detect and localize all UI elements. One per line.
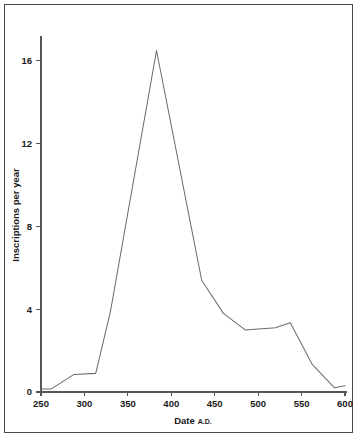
x-axis-title: DateA.D.: [174, 415, 212, 426]
y-tick-label: 4: [27, 304, 33, 315]
x-tick-label: 450: [207, 398, 223, 409]
x-tick-label: 500: [250, 398, 266, 409]
x-tick-label: 300: [76, 398, 92, 409]
y-tick-label: 0: [27, 386, 32, 397]
figure-root: 0481216 250300350400450500550600 DateA.D…: [0, 0, 358, 438]
y-tick-label: 8: [27, 221, 32, 232]
y-tick-label: 12: [21, 138, 32, 149]
x-tick-label: 400: [163, 398, 179, 409]
x-tick-label: 350: [120, 398, 136, 409]
y-axis-ticks: [36, 61, 41, 392]
x-tick-label: 550: [294, 398, 310, 409]
x-tick-label: 600: [337, 398, 353, 409]
x-axis-title-main: Date: [174, 415, 195, 426]
y-axis-title: Inscriptions per year: [10, 168, 21, 262]
x-tick-label: 250: [33, 398, 49, 409]
y-axis-tick-labels: 0481216: [21, 55, 32, 397]
data-series-line: [41, 50, 345, 388]
x-axis-tick-labels: 250300350400450500550600: [33, 398, 353, 409]
line-chart: 0481216 250300350400450500550600 DateA.D…: [0, 0, 358, 438]
x-axis-title-suffix: A.D.: [198, 418, 212, 425]
y-tick-label: 16: [21, 55, 32, 66]
